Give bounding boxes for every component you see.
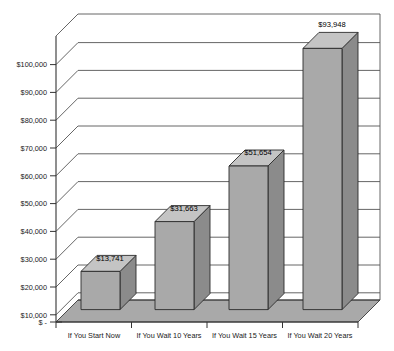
bar-side-2 (268, 150, 284, 310)
category-label-3: If You Wait 20 Years (287, 331, 352, 340)
ytick-label-40000: $40,000 (21, 227, 47, 236)
ytick-label-70000: $70,000 (21, 144, 47, 153)
ytick-label-60000: $60,000 (21, 172, 47, 181)
column-chart-3d: $100,000 $90,000 $80,000 $70,000 $60,000… (0, 0, 394, 351)
bar-front-3 (303, 48, 342, 309)
bar-group-3[interactable] (303, 32, 358, 309)
ytick-label-90000: $90,000 (21, 88, 47, 97)
bar-value-label-2: $51,654 (244, 148, 271, 157)
ytick-label-50000: $50,000 (21, 199, 47, 208)
bar-group-2[interactable] (229, 150, 284, 310)
bar-value-label-1: $31,663 (170, 204, 197, 213)
bar-front-0 (81, 271, 120, 309)
ytick-label-30000: $30,000 (21, 255, 47, 264)
bar-group-0[interactable] (81, 255, 136, 309)
chart-container: $100,000 $90,000 $80,000 $70,000 $60,000… (0, 0, 394, 351)
bar-front-2 (229, 166, 268, 310)
bar-side-3 (342, 32, 358, 309)
category-label-2: If You Wait 15 Years (212, 331, 277, 340)
category-label-0: If You Start Now (68, 331, 121, 340)
bar-value-label-0: $13,741 (96, 254, 123, 263)
bar-value-label-3: $93,948 (318, 20, 345, 29)
bar-front-1 (155, 222, 194, 310)
bar-side-1 (194, 206, 210, 310)
category-label-1: If You Wait 10 Years (136, 331, 201, 340)
category-axis-ticks (56, 322, 358, 328)
ytick-label-100000: $100,000 (17, 60, 47, 69)
ytick-label-0: $ - (38, 318, 47, 327)
ytick-label-80000: $80,000 (21, 116, 47, 125)
bar-group-1[interactable] (155, 206, 210, 310)
ytick-label-20000: $20,000 (21, 283, 47, 292)
